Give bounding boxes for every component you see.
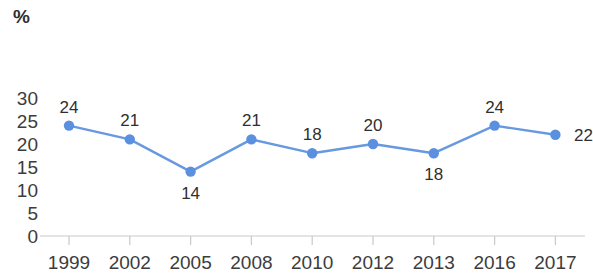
x-axis-tick-label: 2010	[291, 253, 333, 272]
data-point-marker[interactable]	[550, 130, 560, 140]
data-point-value-label: 22	[574, 127, 593, 144]
x-axis-tick-label: 2016	[473, 253, 515, 272]
data-point-marker[interactable]	[368, 139, 378, 149]
data-point-marker[interactable]	[125, 134, 135, 144]
data-point-marker[interactable]	[489, 120, 499, 130]
data-point-marker[interactable]	[429, 148, 439, 158]
data-point-value-label: 18	[424, 166, 443, 183]
data-point-value-label: 20	[364, 117, 383, 134]
x-axis-tick-label: 2008	[230, 253, 272, 272]
x-axis-tick-label: 2017	[534, 253, 576, 272]
data-point-value-label: 18	[303, 126, 322, 143]
x-axis-tick-label: 2012	[352, 253, 394, 272]
x-axis-tick-label: 2013	[413, 253, 455, 272]
data-point-value-label: 21	[120, 112, 139, 129]
x-axis-tick-label: 2005	[169, 253, 211, 272]
data-point-marker[interactable]	[307, 148, 317, 158]
data-point-value-label: 24	[60, 99, 79, 116]
x-axis	[40, 236, 585, 245]
data-point-marker[interactable]	[185, 166, 195, 176]
x-axis-tick-label: 2002	[109, 253, 151, 272]
data-point-value-label: 14	[181, 185, 200, 202]
data-point-value-label: 24	[485, 99, 504, 116]
data-point-value-label: 21	[242, 112, 261, 129]
x-axis-tick-label: 1999	[48, 253, 90, 272]
data-point-marker[interactable]	[64, 120, 74, 130]
data-point-marker[interactable]	[246, 134, 256, 144]
